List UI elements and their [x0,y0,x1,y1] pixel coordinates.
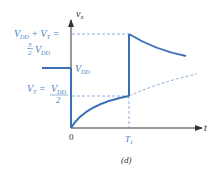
top-level-label: VDD + VT = [14,28,59,40]
charging-curve [71,96,129,128]
vdd-label: VDD [75,63,90,75]
decay-curve [129,34,186,56]
top-frac-num: 3 [27,41,32,49]
t1-label: T1 [125,134,133,145]
origin-label: 0 [69,132,74,142]
vt-label: VT = [27,83,46,95]
continuation-dashed-curve [129,74,197,96]
vt-frac-den: 2 [56,96,60,105]
y-axis-label: vx [76,8,84,21]
x-axis-label: t [204,122,207,133]
top-level-label-2: VDD [35,44,50,56]
waveform-diagram: vx t 0 T1 (d) VDD + VT = 3 2 VDD VDD VT … [0,0,216,174]
top-frac-den: 2 [28,49,32,57]
figure-caption: (d) [121,155,132,165]
vt-frac-num: VDD [51,83,66,95]
